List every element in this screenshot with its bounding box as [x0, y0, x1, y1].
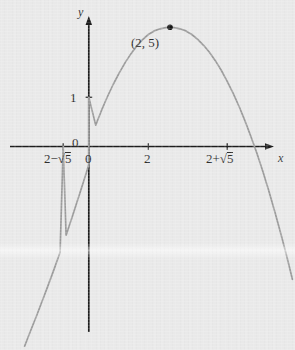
x-tick-label-root-left: 2−√5: [44, 152, 71, 165]
parabola-curve: [25, 27, 293, 346]
y-tick-label-1: 1: [70, 91, 77, 104]
root-right-operator: +: [213, 151, 220, 166]
y-axis-arrowhead: [86, 16, 93, 25]
parabola-plot-canvas: [0, 0, 295, 350]
root-right-radical: √5: [220, 152, 234, 165]
x-tick-label-two: 2: [144, 152, 151, 165]
x-axis-label: x: [278, 152, 283, 164]
x-tick-label-root-right: 2+√5: [206, 152, 233, 165]
vertex-point-label: (2, 5): [131, 36, 159, 49]
x-axis-arrowhead: [265, 143, 274, 150]
root-left-operator: −: [51, 151, 58, 166]
root-left-radical: √5: [58, 152, 72, 165]
parabola-figure: y x 1 0 0 2 2−√5 2+√5 (2, 5): [0, 0, 295, 350]
y-axis-label: y: [78, 6, 83, 18]
x-axis: [10, 143, 274, 150]
vertex-point-marker: [167, 25, 173, 31]
origin-label: 0: [72, 136, 79, 149]
x-tick-label-zero: 0: [85, 152, 92, 165]
